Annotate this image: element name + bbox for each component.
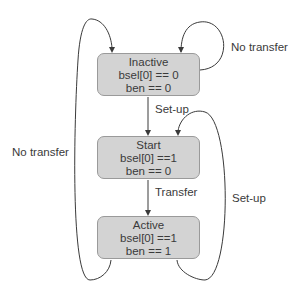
state-condition: bsel[0] == 0 [98, 69, 199, 82]
state-condition: bsel[0] ==1 [98, 232, 199, 245]
label-setup-active-start: Set-up [232, 192, 266, 204]
state-condition: ben == 0 [98, 165, 199, 178]
state-active: Active bsel[0] ==1 ben == 1 [97, 216, 200, 259]
label-no-transfer-active-inactive: No transfer [12, 146, 69, 158]
state-name: Active [98, 219, 199, 232]
state-inactive: Inactive bsel[0] == 0 ben == 0 [97, 53, 200, 96]
state-condition: bsel[0] ==1 [98, 152, 199, 165]
label-transfer: Transfer [155, 186, 197, 198]
label-no-transfer-self: No transfer [231, 41, 288, 53]
state-name: Start [98, 139, 199, 152]
state-condition: ben == 1 [98, 245, 199, 258]
state-start: Start bsel[0] ==1 ben == 0 [97, 136, 200, 179]
state-condition: ben == 0 [98, 82, 199, 95]
state-name: Inactive [98, 56, 199, 69]
label-setup-inactive-start: Set-up [155, 103, 189, 115]
